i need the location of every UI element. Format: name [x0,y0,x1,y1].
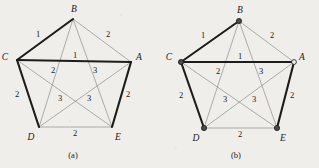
edge-weight-AE: 2 [290,90,294,100]
vertex-marker-B[interactable] [236,18,241,23]
vertex-marker-A[interactable] [292,60,297,65]
edge-weight-CE: 3 [223,94,227,104]
panel-a: 1212222333ABCDE(a) [2,4,142,160]
vertex-label-A: A [298,52,305,62]
figure-container: 1212222333ABCDE(a)1212222333ABCDE(b) [0,0,319,168]
edge-weight-CE: 3 [58,93,62,103]
edge-BA [239,21,294,62]
vertex-label-C: C [166,52,173,62]
edge-BC-highlighted [17,19,73,60]
vertex-label-E: E [279,133,286,143]
edge-CA-highlighted [17,60,131,62]
edge-weight-BA: 2 [270,30,274,40]
caption-panel-b: (b) [231,150,241,160]
vertex-label-D: D [192,133,200,143]
edge-BD [39,19,73,127]
edge-weight-CA: 1 [73,50,77,60]
vertex-marker-C[interactable] [178,59,183,64]
edge-weight-AE: 2 [126,89,130,99]
edge-weight-BE: 3 [259,66,263,76]
edge-BD [204,21,239,128]
edge-weight-DE: 2 [73,128,77,138]
edge-weight-AD: 3 [87,93,91,103]
vertex-label-A: A [135,52,142,62]
vertex-marker-E[interactable] [274,125,279,130]
edge-weight-DE: 2 [238,129,242,139]
edge-weight-CA: 1 [238,51,242,61]
edge-weight-CD: 2 [179,90,183,100]
edge-weight-BC: 1 [201,30,205,40]
vertex-label-B: B [71,4,77,14]
edge-weight-BE: 3 [93,65,97,75]
edge-CE [17,60,112,127]
edge-weight-CD: 2 [15,89,19,99]
panel-b: 1212222333ABCDE(b) [166,5,305,160]
edge-CD-highlighted [181,62,204,128]
vertex-label-B: B [237,5,243,15]
edge-weight-BD: 2 [51,65,55,75]
edge-weight-BA: 2 [106,29,110,39]
edge-BA [73,19,131,62]
vertex-marker-D[interactable] [201,125,206,130]
edge-CD-highlighted [17,60,39,127]
vertex-label-E: E [114,132,121,142]
vertex-label-C: C [2,52,9,62]
graph-figure-svg: 1212222333ABCDE(a)1212222333ABCDE(b) [0,0,319,168]
edge-weight-AD: 3 [252,94,256,104]
vertex-label-D: D [27,132,35,142]
edge-weight-BD: 2 [216,66,220,76]
edge-weight-BC: 1 [36,29,40,39]
caption-panel-a: (a) [68,150,78,160]
edge-BC-highlighted [181,21,239,62]
